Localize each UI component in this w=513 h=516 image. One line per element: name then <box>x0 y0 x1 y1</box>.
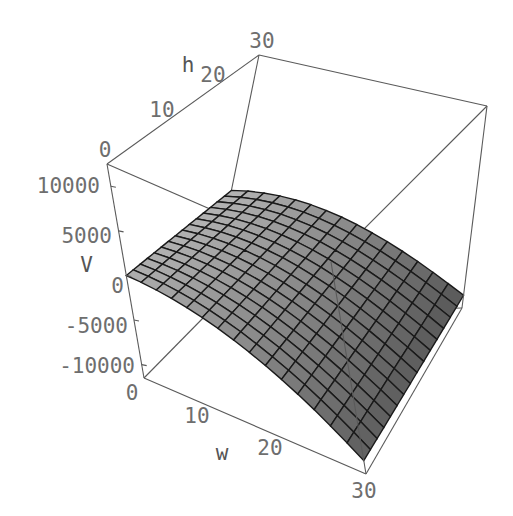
h-axis-label: h <box>182 53 195 77</box>
w-tick-20: 20 <box>257 436 282 460</box>
h-tick-20: 20 <box>200 63 225 87</box>
w-tick-10: 10 <box>184 404 209 428</box>
w-tick-0: 0 <box>126 381 139 405</box>
w-tick-30: 30 <box>351 479 376 503</box>
v-axis-label: V <box>80 253 93 277</box>
v-tick-minus-10000: -10000 <box>59 354 135 378</box>
h-tick-0: 0 <box>99 138 112 162</box>
surface-mesh <box>126 190 463 460</box>
h-tick-10: 10 <box>149 98 174 122</box>
v-tick-minus-5000: -5000 <box>65 314 128 338</box>
v-tick-0: 0 <box>111 274 124 298</box>
w-axis-label: w <box>216 441 229 465</box>
surface-plot-3d: 10000 5000 V 0 -5000 -10000 0 10 h 20 30… <box>0 0 513 516</box>
v-tick-5000: 5000 <box>61 224 112 248</box>
h-tick-30: 30 <box>249 29 274 53</box>
v-tick-10000: 10000 <box>37 174 100 198</box>
